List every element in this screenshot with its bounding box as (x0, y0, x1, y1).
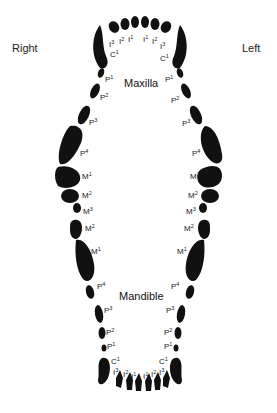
label-lower-left-p1: P1 (164, 340, 172, 351)
label-upper-left-p2: P2 (171, 94, 179, 105)
label-lower-left-p2: P2 (164, 326, 172, 337)
label-lower-right-i1: I1 (131, 370, 136, 381)
label-upper-left-i1: I1 (143, 33, 148, 44)
label-lower-right-p1: P1 (107, 340, 115, 351)
label-lower-left-i2: I2 (151, 368, 156, 379)
label-upper-right-i1: I1 (128, 33, 133, 44)
tooth-upper-left-i3 (159, 19, 174, 34)
left-side-label: Left (242, 42, 260, 54)
tooth-upper-left-i1 (141, 16, 149, 28)
label-upper-right-p2: P2 (100, 91, 108, 102)
right-side-label: Right (12, 42, 38, 54)
label-lower-right-c1: C1 (111, 355, 120, 366)
label-upper-left-p1: P1 (165, 73, 173, 84)
label-upper-right-m2: M2 (82, 189, 92, 200)
label-lower-left-m3: M3 (186, 205, 196, 216)
label-lower-right-m3: M3 (83, 205, 93, 216)
label-upper-right-p1: P1 (105, 73, 113, 84)
label-lower-left-i1: I1 (143, 370, 148, 381)
tooth-upper-left-i2 (151, 18, 160, 30)
label-upper-left-i3: I3 (160, 40, 165, 51)
label-lower-left-p4: P4 (171, 280, 179, 291)
label-lower-right-p2: P2 (106, 326, 114, 337)
maxilla-label: Maxilla (124, 77, 158, 89)
label-upper-left-i2: I2 (152, 35, 157, 46)
label-upper-right-i2: I2 (119, 35, 124, 46)
label-lower-left-m2: M2 (184, 222, 194, 233)
label-lower-right-p4: P4 (97, 280, 105, 291)
label-upper-right-m1: M1 (82, 170, 92, 181)
label-lower-right-p3: P3 (104, 304, 112, 315)
teeth-illustration (0, 0, 277, 413)
label-upper-left-p4: P4 (192, 147, 200, 158)
label-lower-left-p3: P3 (166, 304, 174, 315)
label-lower-right-m2: M2 (85, 222, 95, 233)
tooth-upper-right-i3 (107, 19, 122, 34)
label-upper-right-p3: P3 (89, 116, 97, 127)
label-lower-right-i2: I2 (123, 368, 128, 379)
dental-formula-diagram: Right Left Maxilla Mandible I3 I2 I1 C1 … (0, 0, 277, 413)
label-lower-right-i3: I3 (113, 366, 118, 377)
label-lower-left-c1: C1 (159, 355, 168, 366)
label-upper-left-p3: P3 (182, 117, 190, 128)
label-lower-left-m1: M1 (177, 245, 187, 256)
label-upper-left-m2: M2 (188, 189, 198, 200)
mandible-label: Mandible (119, 290, 164, 302)
label-upper-right-p4: P4 (80, 147, 88, 158)
label-upper-left-c1: C1 (160, 52, 169, 63)
tooth-upper-right-i2 (121, 18, 130, 30)
label-lower-left-i3: I3 (159, 366, 164, 377)
tooth-upper-right-i1 (131, 16, 139, 28)
label-lower-right-m1: M1 (91, 245, 101, 256)
tooth-upper-right-c1 (93, 25, 107, 68)
label-upper-left-m1: M1 (190, 170, 200, 181)
label-upper-right-c1: C1 (110, 48, 119, 59)
tooth-upper-left-c1 (172, 25, 186, 68)
